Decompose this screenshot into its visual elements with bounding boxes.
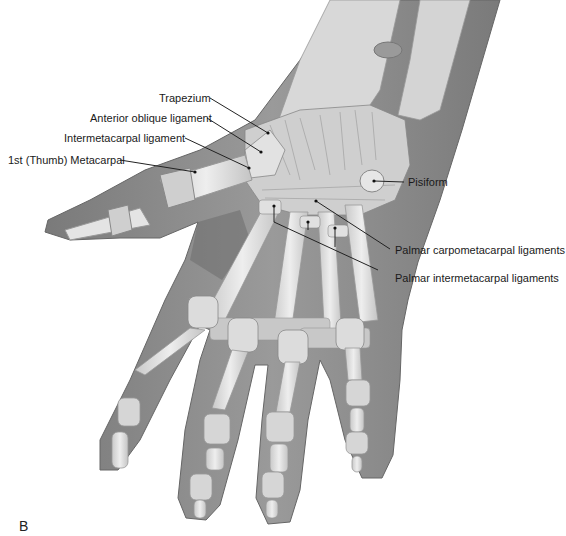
panel-letter: B [19, 518, 28, 534]
label-anterior-oblique-ligament: Anterior oblique ligament [90, 112, 212, 124]
hand-illustration [0, 0, 566, 536]
hand-anatomy-figure: Trapezium Anterior oblique ligament Inte… [0, 0, 566, 536]
carpal-bones [245, 105, 410, 215]
label-palmar-intermetacarpal-ligaments: Palmar intermetacarpal ligaments [395, 272, 559, 284]
label-pisiform: Pisiform [408, 176, 448, 188]
label-intermetacarpal-ligament: Intermetacarpal ligament [64, 132, 185, 144]
label-trapezium: Trapezium [159, 92, 211, 104]
label-palmar-carpometacarpal-ligaments: Palmar carpometacarpal ligaments [395, 244, 565, 256]
label-first-metacarpal: 1st (Thumb) Metacarpal [8, 154, 125, 166]
